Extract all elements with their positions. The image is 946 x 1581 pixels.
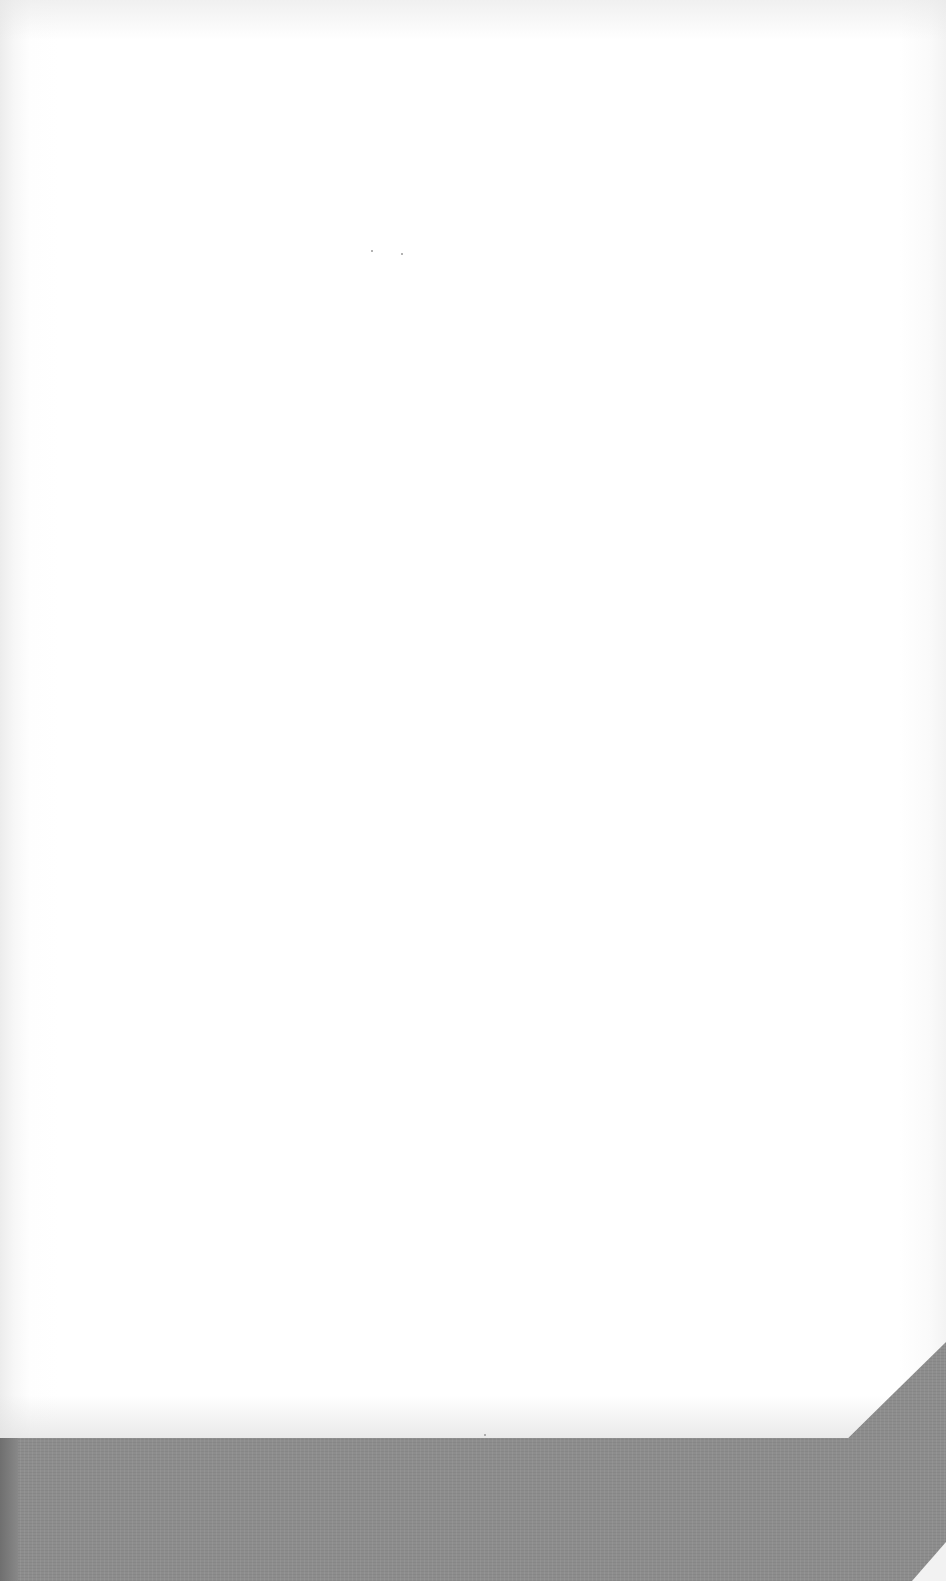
dust-speck (371, 250, 373, 252)
scan-scene (0, 0, 946, 1581)
backing-shadow-edge (0, 1438, 18, 1581)
page-top-shading (0, 0, 946, 40)
page-bottom-shading (0, 1395, 946, 1438)
dust-speck (484, 1434, 486, 1436)
blank-document-page (0, 0, 946, 1581)
dust-speck (401, 253, 403, 255)
